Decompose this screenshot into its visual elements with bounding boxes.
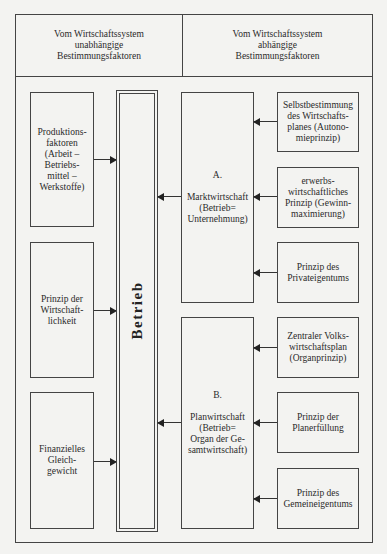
arrow-production-to-betrieb bbox=[94, 159, 116, 160]
header-dependent-factors: Vom Wirtschaftssystem abhängige Bestimmu… bbox=[183, 15, 372, 76]
arrow-central-plan-to-planned bbox=[254, 347, 277, 348]
betrieb-label: Betrieb bbox=[129, 281, 146, 341]
factor-autonomy-principle: Selbstbestimmung des Wirtschafts- planes… bbox=[277, 92, 359, 152]
arrow-private-to-market bbox=[254, 272, 277, 273]
arrow-fulfillment-to-planned bbox=[254, 422, 277, 423]
header-independent-factors: Vom Wirtschaftssystem unabhängige Bestim… bbox=[16, 15, 182, 76]
arrow-efficiency-to-betrieb bbox=[94, 310, 116, 311]
arrow-planned-to-betrieb bbox=[158, 422, 181, 423]
arrow-autonomy-to-market bbox=[254, 121, 277, 122]
factor-financial-balance: Finanzielles Gleich- gewicht bbox=[30, 392, 94, 529]
factor-central-plan: Zentraler Volks- wirtschaftsplan (Organp… bbox=[277, 317, 359, 378]
arrow-common-to-planned bbox=[254, 498, 277, 499]
factor-production: Produktions- faktoren (Arbeit – Betriebs… bbox=[30, 92, 94, 227]
arrow-financial-to-betrieb bbox=[94, 461, 116, 462]
arrow-market-to-betrieb bbox=[158, 196, 181, 197]
arrow-profit-to-market bbox=[254, 196, 277, 197]
system-market-economy: A. Marktwirtschaft (Betrieb= Unternehmun… bbox=[181, 92, 254, 303]
factor-economic-efficiency: Prinzip der Wirtschaft- lichkeit bbox=[30, 242, 94, 378]
factor-plan-fulfillment: Prinzip der Planerfüllung bbox=[277, 392, 359, 453]
factor-private-property: Prinzip des Privateigentums bbox=[277, 242, 359, 303]
factor-profit-maximization: erwerbs- wirtschaftliches Prinzip (Gewin… bbox=[277, 167, 359, 228]
factor-common-property: Prinzip des Gemeineigentums bbox=[277, 468, 359, 529]
system-planned-economy: B. Planwirtschaft (Betrieb= Organ der Ge… bbox=[181, 317, 254, 529]
